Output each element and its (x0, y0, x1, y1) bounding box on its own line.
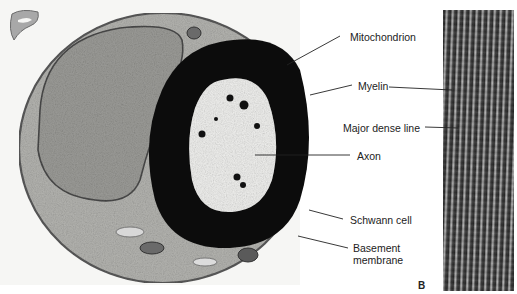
label-axon: Axon (357, 150, 381, 162)
micrograph-panel-b (443, 10, 514, 291)
figure: Mitochondrion Myelin Major dense line Ax… (0, 0, 517, 294)
label-major-dense-line: Major dense line (343, 122, 420, 134)
label-schwann-cell: Schwann cell (350, 214, 412, 226)
label-mitochondrion: Mitochondrion (350, 31, 416, 43)
mitochondrion-organelle (187, 27, 201, 39)
label-myelin: Myelin (358, 80, 388, 92)
micrograph-panel-a (0, 0, 517, 294)
panel-label-b: B (418, 280, 425, 291)
label-basement-membrane-line2: membrane (353, 254, 403, 266)
label-basement-membrane-line1: Basement (353, 242, 400, 254)
